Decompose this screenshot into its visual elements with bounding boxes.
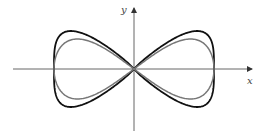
figure-eight-diagram: x y — [0, 0, 261, 139]
y-axis-label: y — [120, 4, 127, 15]
x-axis-label: x — [247, 75, 253, 86]
